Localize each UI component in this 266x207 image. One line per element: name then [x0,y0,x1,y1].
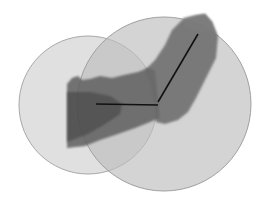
arm-joint-diagram [0,0,266,207]
diagram-canvas [0,0,266,207]
upper-arm-bone [96,104,158,105]
